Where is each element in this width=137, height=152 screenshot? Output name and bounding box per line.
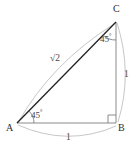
angle-label-c-degree: ° bbox=[109, 33, 111, 39]
angle-label-a-degree: ° bbox=[40, 109, 42, 115]
angle-label-a: 45° bbox=[31, 109, 42, 120]
right-angle-marker-b bbox=[108, 115, 116, 123]
measure-label-side-bc: 1 bbox=[124, 70, 129, 80]
angle-label-c-value: 45 bbox=[100, 34, 109, 44]
measure-label-hypotenuse: √2 bbox=[50, 54, 60, 64]
measure-label-side-ab: 1 bbox=[66, 133, 71, 143]
triangle-svg bbox=[0, 0, 137, 152]
geometry-figure: A B C 45° 45° √2 1 1 bbox=[0, 0, 137, 152]
vertex-label-a: A bbox=[6, 123, 13, 133]
vertex-label-b: B bbox=[118, 123, 125, 133]
angle-label-c: 45° bbox=[100, 33, 111, 44]
vertex-label-c: C bbox=[113, 4, 120, 14]
angle-label-a-value: 45 bbox=[31, 110, 40, 120]
measure-label-hypotenuse-value: 2 bbox=[55, 53, 60, 63]
